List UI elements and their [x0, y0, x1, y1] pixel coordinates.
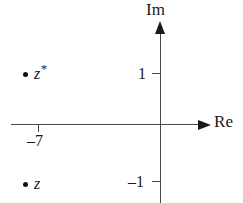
real-axis-tick-label: –7 [27, 133, 43, 149]
imaginary-axis-tick-mark-negative [152, 181, 161, 182]
imaginary-axis-arrow-icon [155, 21, 165, 34]
data-point-label-z: z [34, 176, 40, 192]
data-point-label-base: z [34, 175, 40, 192]
imaginary-axis-tick-mark-positive [152, 73, 161, 74]
conjugate-asterisk-icon: * [41, 61, 48, 76]
data-point-z: z [23, 176, 40, 192]
imaginary-axis-line [160, 26, 161, 203]
imaginary-axis-tick-label-positive: 1 [138, 66, 146, 82]
data-point-label-base: z [34, 65, 40, 82]
data-point-marker-icon [23, 182, 28, 187]
data-point-z-conjugate: z* [23, 66, 47, 82]
imaginary-axis-tick-label-negative: –1 [128, 174, 144, 190]
real-axis-label: Re [214, 113, 233, 130]
imaginary-axis-label: Im [146, 1, 165, 18]
real-axis-tick-mark [38, 125, 39, 132]
data-point-marker-icon [23, 72, 28, 77]
real-axis-line [11, 124, 203, 125]
real-axis-arrow-icon [198, 120, 211, 130]
data-point-label-z-conjugate: z* [34, 66, 47, 82]
argand-diagram-figure: Re Im –7 1 –1 z* z [0, 0, 243, 203]
